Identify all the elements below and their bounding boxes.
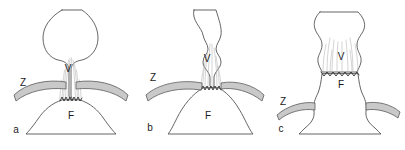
panel-b: V F Z b <box>146 10 264 134</box>
panel-b-label-F: F <box>205 110 211 121</box>
panel-b-label-Z: Z <box>150 72 156 83</box>
panel-c: V F Z c <box>277 12 400 134</box>
panel-b-label-V: V <box>204 53 211 64</box>
panel-c-label-F: F <box>338 79 344 90</box>
panel-a-label-Z: Z <box>20 77 26 88</box>
panel-b-upper-chamber-outline <box>193 10 221 89</box>
panel-c-upper-chamber-outline <box>314 12 364 72</box>
panel-c-label-V: V <box>338 51 345 62</box>
panel-c-band-right <box>366 102 400 118</box>
figure-canvas: V F Z a <box>0 0 405 150</box>
panel-a-label-F: F <box>68 110 74 121</box>
panel-a-label-V: V <box>65 63 72 74</box>
panel-c-letter: c <box>279 123 284 134</box>
panel-b-letter: b <box>147 122 153 133</box>
panel-a-letter: a <box>13 124 19 135</box>
panel-a: V F Z a <box>13 10 128 135</box>
panel-a-band-right <box>76 81 128 101</box>
diagram-svg: V F Z a <box>0 0 405 150</box>
panel-c-label-Z: Z <box>280 96 286 107</box>
